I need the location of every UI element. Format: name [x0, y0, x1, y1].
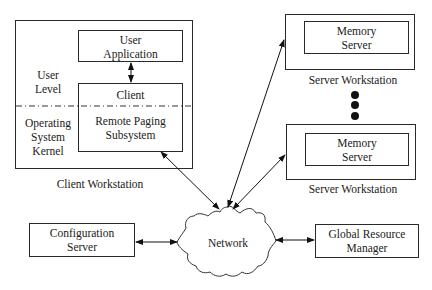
configuration-server-box: Configuration Server: [29, 223, 135, 257]
server2-network-arrow: [233, 155, 285, 209]
remote-paging-line2: Subsystem: [79, 128, 182, 142]
memory-server-2-line1: Memory: [306, 136, 408, 150]
user-level-line2: Level: [28, 82, 68, 96]
ellipsis-dot-2: [351, 101, 359, 109]
ellipsis-dot-3: [351, 112, 359, 120]
memory-server-box-1: Memory Server: [304, 21, 409, 54]
kernel-line3: Kernel: [20, 144, 76, 158]
user-application-line1: User: [79, 33, 182, 47]
memory-server-1-line2: Server: [305, 38, 408, 52]
kernel-label: Operating System Kernel: [20, 116, 76, 158]
network-label: Network: [196, 236, 260, 250]
server1-network-arrow: [228, 40, 284, 207]
user-level-line1: User: [28, 68, 68, 82]
client-workstation-label: Client Workstation: [40, 177, 160, 191]
server-workstation-label-1: Server Workstation: [290, 73, 416, 87]
configuration-server-line2: Server: [30, 240, 134, 254]
user-application-box: User Application: [78, 30, 183, 62]
global-resource-manager-box: Global Resource Manager: [315, 224, 419, 258]
user-level-label: User Level: [28, 68, 68, 96]
remote-paging-line1: Remote Paging: [79, 114, 182, 128]
memory-server-2-line2: Server: [306, 150, 408, 164]
global-resource-manager-line2: Manager: [316, 241, 418, 255]
client-title: Client: [79, 88, 182, 102]
ellipsis-dot-1: [351, 91, 359, 99]
kernel-line2: System: [20, 130, 76, 144]
configuration-server-line1: Configuration: [30, 226, 134, 240]
memory-server-box-2: Memory Server: [305, 133, 409, 166]
memory-server-1-line1: Memory: [305, 24, 408, 38]
global-resource-manager-line1: Global Resource: [316, 227, 418, 241]
client-box: Client Remote Paging Subsystem: [78, 83, 183, 152]
user-application-line2: Application: [79, 47, 182, 61]
server-workstation-label-2: Server Workstation: [290, 182, 416, 196]
kernel-line1: Operating: [20, 116, 76, 130]
